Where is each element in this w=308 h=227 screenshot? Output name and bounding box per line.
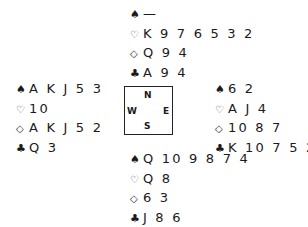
- spade-icon: ♠: [16, 80, 29, 100]
- north-hearts-cards: K 9 7 6 5 3 2: [143, 26, 255, 41]
- west-diamonds: ◇A K J 5 2: [16, 118, 103, 138]
- east-diamonds-cards: 10 8 7: [228, 120, 283, 135]
- north-spades-cards: —: [143, 6, 158, 21]
- east-hearts-cards: A J 4: [228, 101, 268, 116]
- west-hearts: ♡10: [16, 99, 103, 119]
- south-hand: ♠Q 10 9 8 7 4 ♡Q 8 ◇6 3 ♣J 8 6: [130, 149, 250, 227]
- east-spades: ♠6 2: [215, 79, 308, 99]
- compass-west-label: W: [127, 106, 137, 116]
- south-hearts-cards: Q 8: [143, 171, 172, 186]
- north-hearts: ♡K 9 7 6 5 3 2: [130, 24, 255, 44]
- north-clubs-cards: A 9 4: [143, 65, 188, 80]
- heart-icon: ♡: [130, 25, 143, 45]
- compass-north-label: N: [144, 90, 152, 100]
- west-hearts-cards: 10: [29, 101, 50, 116]
- south-diamonds: ◇6 3: [130, 188, 250, 208]
- diamond-icon: ◇: [16, 119, 29, 139]
- south-diamonds-cards: 6 3: [143, 190, 170, 205]
- heart-icon: ♡: [130, 170, 143, 190]
- west-clubs-cards: Q 3: [29, 140, 58, 155]
- east-diamonds: ◇10 8 7: [215, 118, 308, 138]
- north-diamonds: ◇Q 9 4: [130, 43, 255, 63]
- east-spades-cards: 6 2: [228, 81, 255, 96]
- diamond-icon: ◇: [130, 189, 143, 209]
- diamond-icon: ◇: [215, 119, 228, 139]
- south-hearts: ♡Q 8: [130, 169, 250, 189]
- west-diamonds-cards: A K J 5 2: [29, 120, 103, 135]
- east-hearts: ♡A J 4: [215, 99, 308, 119]
- north-hand: ♠— ♡K 9 7 6 5 3 2 ◇Q 9 4 ♣A 9 4: [130, 4, 255, 82]
- spade-icon: ♠: [130, 150, 143, 170]
- spade-icon: ♠: [215, 80, 228, 100]
- club-icon: ♣: [130, 64, 143, 84]
- club-icon: ♣: [16, 139, 29, 159]
- north-spades: ♠—: [130, 4, 255, 24]
- heart-icon: ♡: [215, 100, 228, 120]
- south-clubs: ♣J 8 6: [130, 208, 250, 227]
- heart-icon: ♡: [16, 100, 29, 120]
- south-spades: ♠Q 10 9 8 7 4: [130, 149, 250, 169]
- spade-icon: ♠: [130, 5, 143, 25]
- west-spades: ♠A K J 5 3: [16, 79, 103, 99]
- south-spades-cards: Q 10 9 8 7 4: [143, 151, 250, 166]
- west-spades-cards: A K J 5 3: [29, 81, 103, 96]
- diamond-icon: ◇: [130, 44, 143, 64]
- south-clubs-cards: J 8 6: [143, 210, 183, 225]
- compass-south-label: S: [144, 121, 150, 131]
- west-clubs: ♣Q 3: [16, 138, 103, 158]
- east-hand: ♠6 2 ♡A J 4 ◇10 8 7 ♣K 10 7 5 2: [215, 79, 308, 157]
- compass-box: N W E S: [124, 86, 173, 135]
- compass-east-label: E: [163, 106, 169, 116]
- west-hand: ♠A K J 5 3 ♡10 ◇A K J 5 2 ♣Q 3: [16, 79, 103, 157]
- club-icon: ♣: [130, 209, 143, 227]
- north-diamonds-cards: Q 9 4: [143, 45, 189, 60]
